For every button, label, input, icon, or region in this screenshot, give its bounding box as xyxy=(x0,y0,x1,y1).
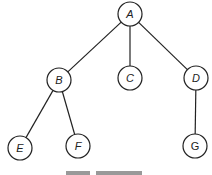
edge-a-d xyxy=(139,22,188,69)
edge-b-f xyxy=(62,92,74,135)
node-d: D xyxy=(184,66,208,90)
node-f: F xyxy=(66,134,90,158)
node-label: G xyxy=(191,140,200,152)
node-b: B xyxy=(47,68,71,92)
node-label: E xyxy=(16,142,24,154)
edge-d-g xyxy=(195,90,196,134)
node-c: C xyxy=(118,66,142,90)
node-label: A xyxy=(125,8,133,20)
node-e: E xyxy=(8,136,32,160)
caption xyxy=(66,171,142,175)
node-label: C xyxy=(126,72,134,84)
edge-b-e xyxy=(26,90,53,137)
node-label: B xyxy=(55,74,62,86)
node-a: A xyxy=(118,2,142,26)
nodes: ABCDEFG xyxy=(8,2,208,160)
edge-a-b xyxy=(68,22,121,72)
node-g: G xyxy=(183,134,207,158)
tree-diagram: ABCDEFG xyxy=(0,0,212,175)
node-label: D xyxy=(192,72,200,84)
